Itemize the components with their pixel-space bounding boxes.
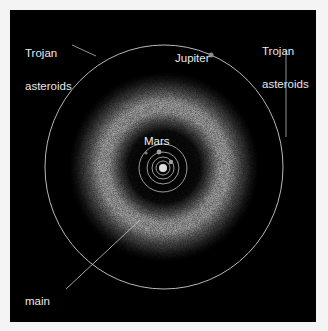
label-trojan-right: Trojan asteroids	[262, 24, 309, 112]
trojan-left-leader	[72, 45, 96, 56]
label-trojan-left-line1: Trojan	[25, 48, 72, 59]
label-trojan-left: Trojan asteroids	[25, 26, 72, 114]
label-trojan-right-line2: asteroids	[262, 79, 309, 90]
diagram-frame: Trojan asteroids Trojan asteroids Jupite…	[10, 10, 316, 322]
label-jupiter: Jupiter	[175, 53, 210, 64]
label-trojan-right-line1: Trojan	[262, 46, 309, 57]
asteroid-dot	[144, 151, 147, 154]
mars-dot	[157, 150, 162, 155]
label-main-belt-line1: main	[25, 296, 66, 307]
earth-dot	[169, 160, 173, 164]
label-trojan-left-line2: asteroids	[25, 81, 72, 92]
sun-icon	[159, 164, 167, 172]
label-mars: Mars	[144, 136, 170, 147]
label-main-belt: main asteroid belt	[25, 274, 66, 322]
